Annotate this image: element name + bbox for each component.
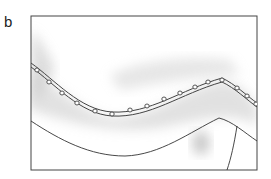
branch-line <box>227 126 237 170</box>
figure-canvas <box>0 0 271 179</box>
shaded-region <box>31 30 257 155</box>
